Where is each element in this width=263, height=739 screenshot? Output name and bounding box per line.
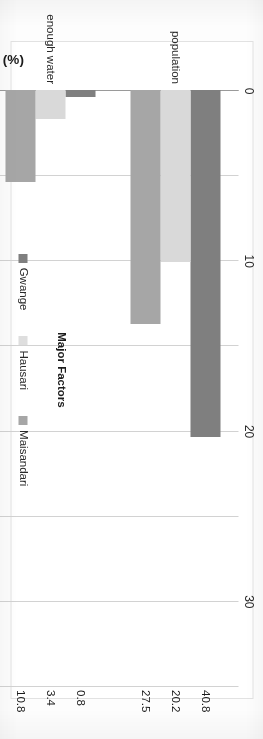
axis-tick-label: 10 — [238, 254, 255, 267]
bar-row: 27.5 — [131, 90, 161, 686]
bar-value-label: 20.2 — [170, 690, 182, 712]
bar-row: 20.2 — [161, 90, 191, 686]
category-axis-title: Major Factors — [55, 42, 67, 698]
bar[interactable]: 27.5 — [131, 90, 161, 324]
rotated-figure-wrapper: Respondent (%) 010203040506070population… — [0, 0, 263, 739]
bar-value-label: 0.8 — [75, 690, 87, 706]
bar[interactable]: 20.2 — [161, 90, 191, 262]
bar-value-label: 27.5 — [140, 690, 152, 712]
legend-item[interactable]: Hausari — [17, 336, 29, 390]
plot-area: 010203040506070population40.820.227.5eno… — [0, 90, 238, 686]
chart-figure: Respondent (%) 010203040506070population… — [10, 41, 253, 699]
legend-label: Maisandari — [17, 430, 29, 486]
chart-inner: Respondent (%) 010203040506070population… — [11, 42, 252, 698]
bar[interactable]: 0.8 — [66, 90, 96, 97]
bar[interactable]: 40.8 — [191, 90, 221, 437]
bar-value-label: 40.8 — [200, 690, 212, 712]
axis-tick-label: 20 — [238, 424, 255, 437]
axis-tick-label: 30 — [238, 595, 255, 608]
bar-row: 40.8 — [191, 90, 221, 686]
category-label: population — [170, 30, 182, 89]
legend-label: Hausari — [17, 350, 29, 390]
bar-row: 0.8 — [66, 90, 96, 686]
legend-swatch-icon — [19, 416, 28, 425]
legend-label: Gwange — [17, 267, 29, 310]
axis-tick-label: 0 — [238, 87, 255, 94]
value-axis-title: Respondent (%) — [0, 48, 252, 70]
legend-item[interactable]: Maisandari — [17, 416, 29, 486]
chart-legend: GwangeHausariMaisandari — [17, 42, 29, 698]
legend-item[interactable]: Gwange — [17, 253, 29, 310]
bar-group: population40.820.227.5 — [113, 90, 238, 686]
legend-swatch-icon — [19, 253, 28, 262]
legend-swatch-icon — [19, 336, 28, 345]
